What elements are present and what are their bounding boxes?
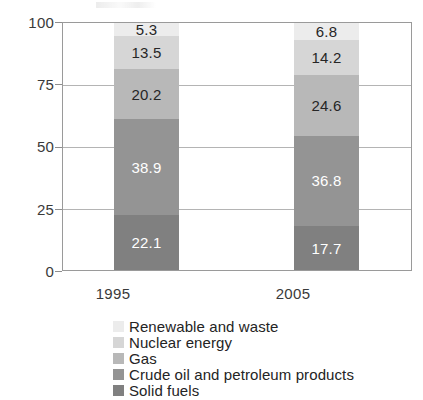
bar-segment-2005-gas[interactable]: 24.6 — [294, 75, 359, 136]
bar-segment-value: 14.2 — [312, 49, 342, 66]
y-tick-label-50: 50 — [8, 138, 54, 155]
bar-segment-1995-gas[interactable]: 20.2 — [114, 69, 179, 119]
legend-swatch-icon — [113, 321, 124, 332]
bar-segment-value: 13.5 — [132, 44, 162, 61]
legend-swatch-icon — [113, 385, 124, 396]
bar-segment-1995-nuclear-energy[interactable]: 13.5 — [114, 36, 179, 69]
bar-segment-2005-nuclear-energy[interactable]: 14.2 — [294, 40, 359, 75]
chart-legend: Renewable and wasteNuclear energyGasCrud… — [113, 318, 354, 398]
legend-item-label: Crude oil and petroleum products — [129, 366, 354, 383]
y-tick-label-0: 0 — [8, 263, 54, 280]
bar-segment-2005-crude-oil-and-petroleum-products[interactable]: 36.8 — [294, 136, 359, 227]
legend-item-crude-oil-and-petroleum-products[interactable]: Crude oil and petroleum products — [113, 366, 354, 382]
bar-segment-2005-solid-fuels[interactable]: 17.7 — [294, 226, 359, 270]
x-axis-label-1995: 1995 — [53, 285, 173, 302]
y-tick-mark-25 — [55, 209, 62, 210]
x-axis-label-2005: 2005 — [233, 285, 353, 302]
bar-segment-value: 6.8 — [316, 23, 337, 40]
y-tick-mark-75 — [55, 84, 62, 85]
y-tick-label-25: 25 — [8, 201, 54, 218]
legend-item-label: Gas — [129, 350, 157, 367]
bar-segment-value: 5.3 — [136, 21, 157, 38]
plot-area: 22.138.920.213.55.3 17.736.824.614.26.8 — [62, 22, 412, 271]
legend-item-gas[interactable]: Gas — [113, 350, 354, 366]
legend-item-label: Solid fuels — [129, 382, 199, 399]
bar-2005[interactable]: 17.736.824.614.26.8 — [294, 23, 359, 270]
bar-segment-2005-renewable-and-waste[interactable]: 6.8 — [294, 23, 359, 40]
legend-swatch-icon — [113, 369, 124, 380]
legend-item-label: Nuclear energy — [129, 334, 232, 351]
scan-artifact — [96, 2, 156, 8]
y-tick-mark-0 — [55, 271, 62, 272]
legend-item-nuclear-energy[interactable]: Nuclear energy — [113, 334, 354, 350]
bar-segment-value: 20.2 — [132, 86, 162, 103]
y-tick-label-75: 75 — [8, 76, 54, 93]
legend-item-solid-fuels[interactable]: Solid fuels — [113, 382, 354, 398]
legend-item-label: Renewable and waste — [129, 318, 279, 335]
legend-swatch-icon — [113, 353, 124, 364]
y-tick-mark-50 — [55, 147, 62, 148]
bar-segment-value: 24.6 — [312, 97, 342, 114]
bar-segment-value: 22.1 — [132, 234, 162, 251]
bar-1995[interactable]: 22.138.920.213.55.3 — [114, 23, 179, 270]
legend-swatch-icon — [113, 337, 124, 348]
bar-segment-1995-crude-oil-and-petroleum-products[interactable]: 38.9 — [114, 119, 179, 215]
bar-segment-value: 38.9 — [132, 159, 162, 176]
bar-segment-value: 17.7 — [312, 240, 342, 257]
y-tick-mark-100 — [55, 22, 62, 23]
stacked-bar-chart: 100 75 50 25 0 22.138.920.213.55.3 17.73… — [0, 0, 423, 400]
y-tick-label-100: 100 — [8, 14, 54, 31]
bar-segment-1995-renewable-and-waste[interactable]: 5.3 — [114, 23, 179, 36]
legend-item-renewable-and-waste[interactable]: Renewable and waste — [113, 318, 354, 334]
bar-segment-1995-solid-fuels[interactable]: 22.1 — [114, 215, 179, 270]
bar-segment-value: 36.8 — [312, 172, 342, 189]
